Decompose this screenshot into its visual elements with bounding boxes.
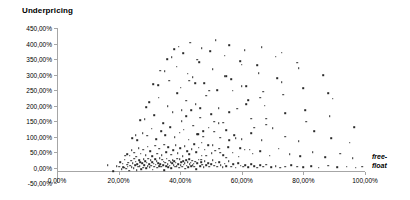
data-point <box>284 136 286 138</box>
data-point <box>138 147 140 149</box>
data-point <box>141 163 143 165</box>
data-point <box>352 157 354 159</box>
data-point <box>213 121 215 123</box>
data-point <box>324 156 326 158</box>
data-point <box>215 40 217 42</box>
data-point <box>156 153 158 155</box>
data-point <box>173 149 175 151</box>
data-point <box>246 85 248 87</box>
data-point <box>210 113 212 115</box>
data-point <box>196 133 198 135</box>
data-point <box>158 165 160 167</box>
data-point <box>284 166 286 168</box>
data-point <box>304 109 306 111</box>
data-point <box>133 152 135 154</box>
data-point <box>136 169 138 171</box>
data-point <box>171 57 173 59</box>
data-point <box>152 169 154 171</box>
data-point <box>244 149 246 151</box>
data-point <box>250 133 252 135</box>
data-point <box>127 166 129 168</box>
data-point <box>147 146 149 148</box>
data-point <box>206 165 208 167</box>
data-point <box>280 167 282 169</box>
data-point <box>181 109 183 111</box>
data-point <box>272 128 274 130</box>
data-point <box>169 165 171 167</box>
data-point <box>125 155 127 157</box>
data-point <box>207 145 209 147</box>
data-point <box>194 166 196 168</box>
data-point <box>201 142 203 144</box>
data-point <box>126 154 128 156</box>
data-point <box>241 85 243 87</box>
data-point <box>139 120 141 122</box>
data-point <box>199 107 201 109</box>
data-point <box>209 166 211 168</box>
data-point <box>164 169 166 171</box>
data-point <box>203 130 205 132</box>
data-point <box>209 90 211 92</box>
data-point <box>146 162 148 164</box>
data-point <box>207 162 209 164</box>
data-point <box>144 119 146 121</box>
data-point <box>182 53 184 55</box>
data-point <box>128 162 130 164</box>
data-point <box>349 142 351 144</box>
data-point <box>275 56 277 58</box>
data-point <box>190 109 192 111</box>
data-point <box>191 148 193 150</box>
y-tick-label: 350,00% <box>26 56 52 63</box>
data-point <box>236 108 238 110</box>
data-point <box>141 168 143 170</box>
data-point <box>161 155 163 157</box>
data-point <box>140 153 142 155</box>
data-point <box>206 155 208 157</box>
data-point <box>177 152 179 154</box>
data-point <box>167 105 169 107</box>
data-point <box>170 168 172 170</box>
data-point <box>212 144 214 146</box>
data-point <box>355 167 357 169</box>
data-point <box>346 166 348 168</box>
data-point <box>247 99 249 101</box>
data-point <box>235 137 237 139</box>
data-point <box>203 136 205 138</box>
data-point <box>281 52 283 54</box>
data-point <box>125 168 127 170</box>
data-point <box>164 162 166 164</box>
data-point <box>146 106 148 108</box>
data-point <box>256 167 258 169</box>
data-point <box>112 170 114 172</box>
data-point <box>157 85 159 87</box>
data-point <box>179 159 181 161</box>
data-point <box>137 163 139 165</box>
data-point <box>289 154 291 156</box>
data-point <box>158 97 160 99</box>
data-point <box>197 163 199 165</box>
data-point <box>226 75 228 77</box>
data-point <box>312 151 314 153</box>
data-point <box>240 165 242 167</box>
data-point <box>233 134 235 136</box>
data-point <box>175 162 177 164</box>
data-point <box>146 135 148 137</box>
data-point <box>162 123 164 125</box>
data-point <box>229 139 231 141</box>
data-point <box>224 75 226 77</box>
data-point <box>166 151 168 153</box>
data-point <box>154 166 156 168</box>
data-point <box>199 117 201 119</box>
data-point <box>212 160 214 162</box>
data-point <box>166 158 168 160</box>
data-point <box>336 166 338 168</box>
data-point <box>142 133 144 135</box>
data-point <box>155 138 157 140</box>
data-point <box>223 154 225 156</box>
y-tick-label: 450,00% <box>26 25 52 32</box>
data-point <box>224 55 226 57</box>
data-point <box>122 163 124 165</box>
data-point <box>275 165 277 167</box>
data-point <box>163 144 165 146</box>
data-point <box>184 168 186 170</box>
